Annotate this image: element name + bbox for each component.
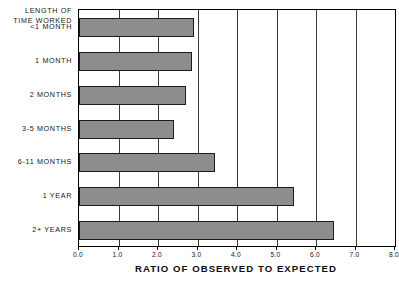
category-label: 1 MONTH [0,56,72,65]
x-tick [315,246,316,250]
x-axis-title: RATIO OF OBSERVED TO EXPECTED [78,263,394,274]
x-tick [78,246,79,250]
bar [79,221,334,240]
x-tick-label: 2.0 [152,251,162,258]
category-label: 1 YEAR [0,191,72,200]
x-tick-label: 7.0 [349,251,359,258]
x-tick [197,246,198,250]
plot-inner [79,10,395,246]
bar [79,187,294,206]
x-tick [355,246,356,250]
bar [79,86,186,105]
category-label: 2+ YEARS [0,225,72,234]
x-tick-label: 8.0 [389,251,399,258]
x-tick [157,246,158,250]
category-label: <1 MONTH [0,22,72,31]
x-tick-label: 6.0 [310,251,320,258]
gridline [198,10,199,246]
bar [79,52,192,71]
category-label: 3-5 MONTHS [0,124,72,133]
gridline [356,10,357,246]
x-tick-label: 4.0 [231,251,241,258]
gridline [237,10,238,246]
x-tick [118,246,119,250]
x-tick [394,246,395,250]
bar [79,153,215,172]
bar [79,18,194,37]
bar-chart: LENGTH OF TIME WORKED <1 MONTH1 MONTH2 M… [0,0,399,287]
plot-area [78,9,396,247]
category-label: 2 MONTHS [0,90,72,99]
gridline [316,10,317,246]
x-tick [236,246,237,250]
category-axis: <1 MONTH1 MONTH2 MONTHS3-5 MONTHS6-11 MO… [0,9,76,245]
category-label: 6-11 MONTHS [0,157,72,166]
bar [79,120,174,139]
x-tick-label: 1.0 [112,251,122,258]
gridline [277,10,278,246]
x-tick-label: 0.0 [73,251,83,258]
x-tick-label: 5.0 [270,251,280,258]
x-tick [276,246,277,250]
x-tick-label: 3.0 [191,251,201,258]
